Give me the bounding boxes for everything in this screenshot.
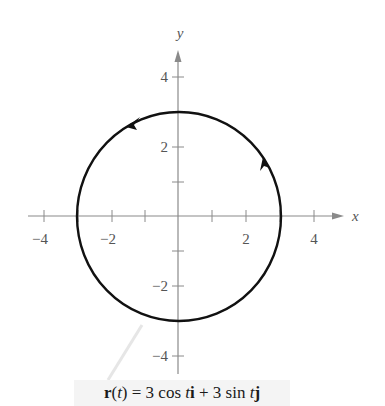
- y-axis-label: y: [175, 25, 184, 41]
- parametric-circle-plot: −4 −2 2 4 x 4 2 −2 −4 y: [0, 0, 385, 406]
- y-tick-label-neg2: −2: [152, 278, 168, 294]
- y-tick-label-4: 4: [161, 69, 169, 85]
- equation-caption: r(t) = 3 cos ti + 3 sin tj: [74, 380, 290, 406]
- x-tick-label-4: 4: [310, 231, 318, 247]
- y-tick-label-neg4: −4: [152, 348, 168, 364]
- caption-text: ) = 3 cos: [122, 383, 185, 402]
- y-tick-label-2: 2: [161, 139, 169, 155]
- x-tick-label-neg2: −2: [100, 231, 116, 247]
- x-tick-label-2: 2: [242, 231, 250, 247]
- y-axis-arrow-icon: [175, 50, 182, 62]
- x-axis-arrow-icon: [332, 213, 344, 220]
- x-tick-label-neg4: −4: [32, 231, 48, 247]
- x-axis-label: x: [351, 208, 359, 224]
- caption-leader-line: [108, 325, 142, 380]
- direction-arrow-icon: [126, 117, 140, 130]
- caption-j: j: [254, 383, 260, 402]
- caption-text: + 3 sin: [195, 383, 250, 402]
